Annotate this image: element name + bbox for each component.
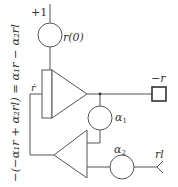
alpha1-label: α1 xyxy=(115,111,127,125)
side-equation: −(−α₁r + α₂rl) = α₁r − α₂rl xyxy=(8,24,22,182)
integrator-icon xyxy=(42,70,87,118)
plus-one-label: +1 xyxy=(31,6,47,19)
alpha1-to-summer-wire xyxy=(87,130,100,143)
output-label: −r xyxy=(151,72,166,85)
rl-input-arrow-icon xyxy=(157,161,163,173)
r0-potentiometer-icon xyxy=(38,23,62,47)
output-box-icon xyxy=(152,87,166,101)
r-dot-label: ṙ xyxy=(31,82,37,93)
alpha2-potentiometer-icon xyxy=(110,155,134,179)
side-equation-text: −(−α₁r + α₂rl) = α₁r − α₂rl xyxy=(8,24,22,182)
alpha2-label: α2 xyxy=(114,143,126,157)
analog-computer-diagram: −(−α₁r + α₂rl) = α₁r − α₂rl +1 r(0) ṙ −r… xyxy=(0,0,178,187)
alpha1-potentiometer-icon xyxy=(88,106,112,130)
summer-icon xyxy=(54,130,87,178)
r0-label: r(0) xyxy=(63,31,84,44)
rl-label: rl xyxy=(155,148,164,161)
